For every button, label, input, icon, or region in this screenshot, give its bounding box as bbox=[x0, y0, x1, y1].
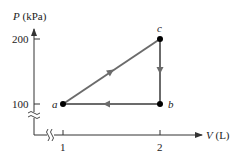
point-label-b: b bbox=[168, 98, 174, 110]
point-label-c: c bbox=[157, 22, 162, 34]
x-axis bbox=[34, 129, 202, 141]
arrow-c-to-b-icon bbox=[157, 67, 164, 74]
point-label-a: a bbox=[52, 98, 58, 110]
y-tick-label-200: 200 bbox=[12, 33, 29, 45]
pv-diagram: P (kPa) 200 100 1 2 V (L) a b c bbox=[0, 0, 234, 156]
y-tick-label-100: 100 bbox=[12, 98, 29, 110]
x-tick-label-2: 2 bbox=[157, 141, 163, 153]
x-axis-label: V (L) bbox=[206, 129, 230, 142]
y-axis bbox=[28, 29, 40, 135]
point-c bbox=[157, 36, 163, 42]
point-a bbox=[60, 101, 66, 107]
y-axis-label: P (kPa) bbox=[12, 10, 47, 23]
x-tick-label-1: 1 bbox=[60, 141, 66, 153]
axis-break-icon bbox=[51, 129, 54, 141]
arrow-b-to-a-icon bbox=[103, 101, 110, 108]
point-b bbox=[157, 101, 163, 107]
